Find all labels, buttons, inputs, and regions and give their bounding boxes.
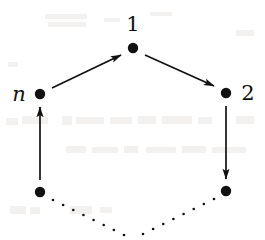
vertex-label-v2: 2 [241, 83, 254, 104]
edge-dotted-e-bl-dots [52, 199, 126, 237]
edge-dot [182, 213, 185, 216]
vertex-node-vbl [35, 187, 45, 197]
edge-dot [203, 203, 206, 206]
edge-dot [152, 228, 155, 231]
edge-arrow-e-1-2 [145, 55, 214, 86]
edge-dot [102, 224, 105, 227]
vertex-node-v2 [221, 88, 231, 98]
vertex-layer [35, 43, 231, 197]
figure-canvas: 12n [0, 0, 265, 240]
edge-layer [40, 55, 226, 236]
vertex-node-vn [35, 89, 45, 99]
edge-dot [142, 233, 145, 236]
edge-dot [162, 223, 165, 226]
edge-dot [123, 234, 126, 237]
edge-dot [92, 219, 95, 222]
edge-dot [192, 208, 195, 211]
directed-cycle-graph [0, 0, 265, 240]
vertex-label-v1: 1 [126, 14, 139, 35]
edge-dot [172, 218, 175, 221]
edge-arrow-e-n-1 [52, 55, 121, 88]
edge-dot [52, 199, 55, 202]
edge-dot [72, 209, 75, 212]
edge-dot [62, 204, 65, 207]
vertex-node-v1 [128, 43, 138, 53]
edge-dot [213, 198, 216, 201]
edge-dot [113, 229, 116, 232]
vertex-label-vn: n [12, 84, 26, 105]
vertex-node-vbr [221, 186, 231, 196]
edge-dotted-e-br-dots [142, 198, 216, 236]
edge-dot [82, 214, 85, 217]
